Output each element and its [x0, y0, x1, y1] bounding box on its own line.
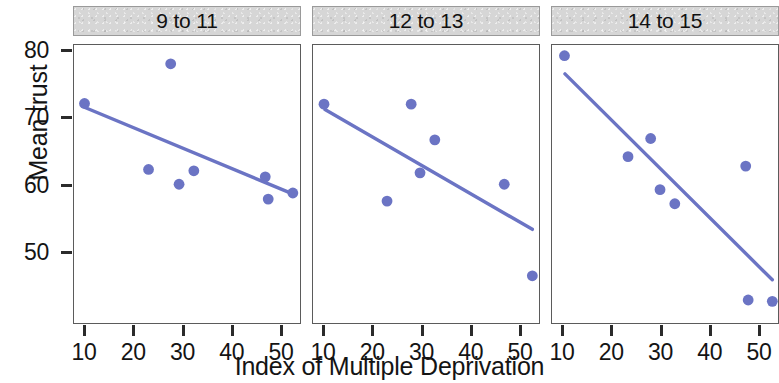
data-point — [143, 164, 154, 175]
x-axis-tick-mark — [182, 325, 185, 336]
data-point — [740, 161, 751, 172]
data-point — [165, 58, 176, 69]
data-layer — [552, 45, 779, 325]
plot-area — [312, 44, 540, 324]
data-point — [79, 98, 90, 109]
x-axis-tick-mark — [322, 325, 325, 336]
regression-line — [565, 74, 772, 280]
data-point — [174, 179, 185, 190]
data-point — [527, 270, 538, 281]
x-axis-tick-mark — [660, 325, 663, 336]
data-point — [645, 133, 656, 144]
y-axis-tick-mark — [61, 49, 72, 52]
y-axis-tick-mark — [61, 116, 72, 119]
data-point — [429, 134, 440, 145]
data-point — [415, 167, 426, 178]
y-axis-tick-label: 50 — [1, 239, 49, 266]
panel-strip-label: 9 to 11 — [73, 6, 301, 36]
panel-strip-label: 14 to 15 — [551, 6, 779, 36]
x-axis-tick-mark — [519, 325, 522, 336]
x-axis-tick-mark — [561, 325, 564, 336]
data-point — [263, 194, 274, 205]
data-layer — [313, 45, 541, 325]
x-axis-tick-mark — [83, 325, 86, 336]
x-axis-tick-mark — [371, 325, 374, 336]
x-axis-tick-mark — [610, 325, 613, 336]
data-point — [743, 295, 754, 306]
data-point — [406, 99, 417, 110]
regression-line — [325, 110, 532, 230]
panel-1: 9 to 111020304050 — [73, 0, 301, 324]
data-point — [287, 188, 298, 199]
x-axis-tick-mark — [231, 325, 234, 336]
x-axis-tick-mark — [132, 325, 135, 336]
data-point — [623, 151, 634, 162]
panel-3: 14 to 151020304050 — [551, 0, 779, 324]
x-axis-tick-mark — [709, 325, 712, 336]
panel-2: 12 to 131020304050 — [312, 0, 540, 324]
plot-area — [73, 44, 301, 324]
y-axis-tick-mark — [61, 184, 72, 187]
y-axis-tick-mark — [61, 251, 72, 254]
x-axis-tick-mark — [470, 325, 473, 336]
data-point — [669, 198, 680, 209]
data-point — [767, 296, 778, 307]
x-axis-title: Index of Multiple Deprivation — [0, 352, 779, 381]
y-axis-tick-label: 60 — [1, 172, 49, 199]
x-axis-tick-mark — [280, 325, 283, 336]
data-point — [319, 99, 330, 110]
data-point — [559, 50, 570, 61]
scatter-plot-figure: Mean trust 80706050 9 to 11102030405012 … — [0, 0, 779, 383]
y-axis-tick-label: 80 — [1, 37, 49, 64]
panel-strip-label: 12 to 13 — [312, 6, 540, 36]
data-point — [655, 184, 666, 195]
data-layer — [74, 45, 302, 325]
x-axis-tick-mark — [758, 325, 761, 336]
data-point — [260, 171, 271, 182]
data-point — [382, 196, 393, 207]
data-point — [499, 179, 510, 190]
data-point — [188, 165, 199, 176]
y-axis-tick-label: 70 — [1, 104, 49, 131]
x-axis-tick-mark — [421, 325, 424, 336]
plot-area — [551, 44, 779, 324]
